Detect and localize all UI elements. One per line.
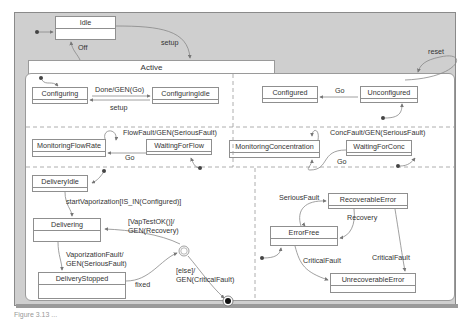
label-else-1: [else]/ <box>176 266 195 275</box>
state-configuring[interactable]: Configuring <box>32 87 88 104</box>
label-vapfault-1: VaporizationFault/ <box>66 250 123 259</box>
state-unrecoverable-error[interactable]: UnrecoverableError <box>330 273 416 293</box>
label-setup: setup <box>161 38 179 47</box>
label-vaptest-1: [VapTestOK()]/ <box>128 217 175 226</box>
label-go-conc: Go <box>337 157 347 166</box>
state-recoverable-error[interactable]: RecoverableError <box>328 193 408 209</box>
label-critical-from-free: CriticalFault <box>303 256 341 265</box>
state-name: RecoverableError <box>329 194 407 206</box>
state-configured[interactable]: Configured <box>262 86 318 103</box>
state-name: Delivering <box>34 219 100 231</box>
label-vapfault-2: GEN(SeriousFault) <box>66 259 127 268</box>
state-name: DeliveryIdle <box>33 176 87 188</box>
state-name: Idle <box>56 17 115 29</box>
state-configuring-idle[interactable]: ConfiguringIdle <box>152 87 219 104</box>
state-waiting-for-conc[interactable]: WaitingForConc <box>346 140 412 156</box>
state-name: UnrecoverableError <box>331 274 415 286</box>
figure-caption: Figure 3.13 ... <box>14 311 57 318</box>
label-off: Off <box>78 43 87 52</box>
state-name: ErrorFree <box>271 227 337 239</box>
state-name: ConfiguringIdle <box>153 88 218 100</box>
label-reset: reset <box>428 47 444 56</box>
label-serious-fault: SeriousFault <box>279 193 319 202</box>
label-recovery: Recovery <box>347 213 377 222</box>
label-setup-back: setup <box>110 103 128 112</box>
state-waiting-for-flow[interactable]: WaitingForFlow <box>146 139 212 155</box>
state-name: MonitoringConcentration <box>230 141 319 153</box>
state-name: DeliveryStopped <box>39 273 125 285</box>
state-name: MonitoringFlowRate <box>33 140 105 152</box>
state-monitoring-flow-rate[interactable]: MonitoringFlowRate <box>32 139 106 157</box>
state-name: WaitingForFlow <box>147 140 211 152</box>
state-delivering[interactable]: Delivering <box>33 218 101 242</box>
label-start-vaporization: startVaporization[IS_IN(Configured)] <box>66 197 181 206</box>
label-go-flow: Go <box>125 153 135 162</box>
state-error-free[interactable]: ErrorFree <box>270 226 338 246</box>
state-unconfigured[interactable]: Unconfigured <box>360 86 418 103</box>
label-done-gen-go: Done/GEN(Go) <box>95 85 144 94</box>
state-idle[interactable]: Idle <box>55 16 116 40</box>
state-name: Configuring <box>33 88 87 100</box>
label-vaptest-2: GEN(Recovery) <box>128 226 179 235</box>
state-active-header[interactable]: Active <box>28 60 275 74</box>
state-monitoring-concentration[interactable]: MonitoringConcentration <box>229 140 320 158</box>
state-name: Unconfigured <box>361 87 417 99</box>
label-fixed: fixed <box>135 280 150 289</box>
label-go-config: Go <box>335 86 345 95</box>
frame-shadow <box>16 304 458 308</box>
label-flow-fault: FlowFault/GEN(SeriousFault) <box>123 128 217 137</box>
state-name: Configured <box>263 87 317 99</box>
state-name: WaitingForConc <box>347 141 411 153</box>
label-critical-from-recoverable: CriticalFault <box>372 253 410 262</box>
label-else-2: GEN(CriticalFault) <box>176 275 234 284</box>
label-conc-fault: ConcFault/GEN(SeriousFault) <box>330 128 425 137</box>
state-delivery-idle[interactable]: DeliveryIdle <box>32 175 88 192</box>
state-delivery-stopped[interactable]: DeliveryStopped <box>38 272 126 299</box>
